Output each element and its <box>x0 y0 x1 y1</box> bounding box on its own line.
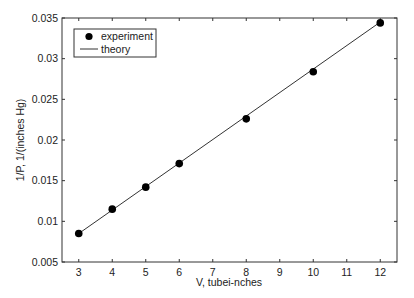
x-tick-label: 9 <box>277 266 283 278</box>
y-tick-label: 0.02 <box>38 134 59 146</box>
experiment-point <box>175 160 183 168</box>
y-tick-label: 0.01 <box>38 215 59 227</box>
x-tick-label: 11 <box>341 266 352 278</box>
x-tick-label: 6 <box>176 266 182 278</box>
y-tick-label: 0.025 <box>32 93 58 105</box>
y-axis-label: 1/P, 1/(inches Hg) <box>14 99 26 182</box>
y-tick-label: 0.035 <box>32 12 58 24</box>
x-tick-label: 10 <box>307 266 319 278</box>
experiment-point <box>309 68 317 76</box>
x-tick-label: 3 <box>76 266 82 278</box>
y-tick-label: 0.005 <box>32 256 58 268</box>
x-tick-label: 12 <box>374 266 386 278</box>
legend-label-theory: theory <box>101 43 131 55</box>
legend-label-experiment: experiment <box>101 30 153 42</box>
legend: experiment theory <box>74 29 156 57</box>
x-axis-label: V, tubei-nches <box>196 276 262 288</box>
experiment-point <box>142 183 150 191</box>
x-tick-label: 5 <box>143 266 149 278</box>
experiment-point <box>242 115 250 123</box>
experiment-point <box>75 230 83 238</box>
experiment-point <box>376 19 384 27</box>
y-tick-label: 0.015 <box>32 174 58 186</box>
legend-marker-experiment-icon <box>85 33 92 40</box>
x-tick-label: 4 <box>109 266 115 278</box>
experiment-point <box>108 205 116 213</box>
chart-container: 34567891011120.0050.010.0150.020.0250.03… <box>0 0 414 298</box>
y-tick-label: 0.03 <box>38 52 59 64</box>
chart-svg: 34567891011120.0050.010.0150.020.0250.03… <box>0 0 414 298</box>
